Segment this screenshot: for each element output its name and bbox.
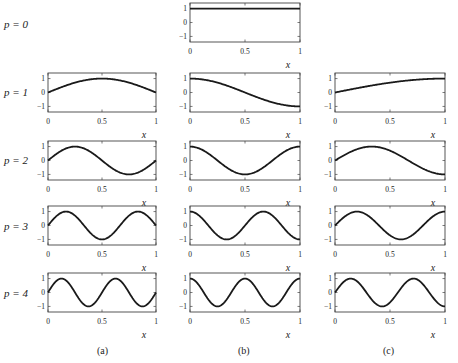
panel-c-p4: 10−100.51x — [324, 273, 447, 340]
x-tick-label: 0 — [46, 185, 50, 194]
x-tick-label: 1 — [298, 47, 302, 56]
y-tick-label: 1 — [183, 4, 187, 13]
y-tick-label: 0 — [41, 88, 45, 97]
mode-curve — [190, 279, 300, 307]
x-tick-label: 0 — [188, 117, 192, 126]
x-tick-label: 1 — [443, 117, 447, 126]
row-label-p0: p = 0 — [3, 18, 28, 30]
caption-b: (b) — [238, 345, 250, 357]
caption-c: (c) — [383, 345, 394, 357]
y-tick-label: −1 — [324, 302, 332, 311]
mode-curve — [335, 79, 445, 93]
x-axis-label: x — [285, 329, 291, 340]
mode-curve — [190, 147, 300, 175]
mode-curve — [48, 79, 156, 93]
y-tick-label: −1 — [324, 235, 332, 244]
y-tick-label: 0 — [41, 221, 45, 230]
y-tick-label: 1 — [41, 74, 45, 83]
y-tick-label: 0 — [328, 288, 332, 297]
x-axis-label: x — [141, 129, 147, 140]
x-tick-label: 1 — [154, 250, 158, 259]
x-tick-label: 1 — [298, 250, 302, 259]
y-tick-label: 1 — [41, 207, 45, 216]
row-labels: p = 0 p = 1 p = 2 p = 3 p = 4 — [3, 18, 28, 299]
y-tick-label: −1 — [324, 102, 332, 111]
y-tick-label: 0 — [183, 221, 187, 230]
y-tick-label: −1 — [37, 235, 45, 244]
x-tick-label: 0 — [188, 250, 192, 259]
y-tick-label: 1 — [328, 207, 332, 216]
x-tick-label: 1 — [154, 185, 158, 194]
y-tick-label: −1 — [179, 32, 187, 41]
x-tick-label: 0.5 — [385, 185, 395, 194]
panel-c-p1: 10−100.51x — [324, 73, 447, 140]
x-tick-label: 0 — [46, 117, 50, 126]
x-axis-label: x — [141, 262, 147, 273]
figure-grid: p = 0 p = 1 p = 2 p = 3 p = 4 10−100.51x… — [0, 0, 458, 363]
y-tick-label: −1 — [37, 302, 45, 311]
x-tick-label: 0.5 — [97, 185, 107, 194]
panel-c-p2: 10−100.51x — [324, 141, 447, 208]
x-tick-label: 0.5 — [97, 117, 107, 126]
y-tick-label: 1 — [328, 142, 332, 151]
x-tick-label: 0 — [333, 117, 337, 126]
x-tick-label: 0.5 — [240, 317, 250, 326]
x-axis-label: x — [285, 129, 291, 140]
x-tick-label: 1 — [298, 117, 302, 126]
y-tick-label: 0 — [328, 88, 332, 97]
y-tick-label: −1 — [37, 170, 45, 179]
y-tick-label: −1 — [179, 302, 187, 311]
x-tick-label: 1 — [443, 250, 447, 259]
mode-curve — [335, 279, 445, 307]
y-tick-label: 0 — [183, 18, 187, 27]
x-axis-label: x — [430, 329, 436, 340]
y-tick-label: 1 — [328, 274, 332, 283]
x-axis-label: x — [430, 262, 436, 273]
y-tick-label: 0 — [183, 156, 187, 165]
mode-curve — [335, 212, 445, 240]
mode-curve — [190, 212, 300, 240]
x-tick-label: 0 — [188, 47, 192, 56]
column-captions: (a) (b) (c) — [97, 345, 394, 357]
x-axis-label: x — [285, 59, 291, 70]
x-tick-label: 0 — [188, 317, 192, 326]
y-tick-label: 0 — [41, 156, 45, 165]
y-tick-label: 0 — [183, 288, 187, 297]
x-tick-label: 0 — [46, 250, 50, 259]
panel-b-p2: 10−100.51x — [179, 141, 302, 208]
y-tick-label: −1 — [324, 170, 332, 179]
x-tick-label: 0.5 — [97, 317, 107, 326]
y-tick-label: 1 — [183, 74, 187, 83]
x-tick-label: 0.5 — [385, 250, 395, 259]
x-tick-label: 0.5 — [385, 317, 395, 326]
x-tick-label: 0 — [46, 317, 50, 326]
x-tick-label: 0 — [188, 185, 192, 194]
y-tick-label: −1 — [37, 102, 45, 111]
x-tick-label: 0 — [333, 185, 337, 194]
mode-curve — [190, 79, 300, 107]
y-tick-label: −1 — [179, 235, 187, 244]
y-tick-label: −1 — [179, 102, 187, 111]
row-label-p4: p = 4 — [3, 287, 28, 299]
x-tick-label: 1 — [298, 185, 302, 194]
x-tick-label: 0.5 — [240, 47, 250, 56]
panel-a-p3: 10−100.51x — [37, 206, 158, 273]
x-tick-label: 1 — [443, 317, 447, 326]
y-tick-label: −1 — [179, 170, 187, 179]
panel-b-p3: 10−100.51x — [179, 206, 302, 273]
x-tick-label: 0.5 — [240, 250, 250, 259]
y-tick-label: 1 — [41, 142, 45, 151]
panel-a-p4: 10−100.51x — [37, 273, 158, 340]
y-tick-label: 1 — [328, 74, 332, 83]
row-label-p3: p = 3 — [3, 220, 28, 232]
panel-b-p4: 10−100.51x — [179, 273, 302, 340]
mode-curve — [48, 279, 156, 307]
x-tick-label: 0.5 — [385, 117, 395, 126]
x-tick-label: 1 — [443, 185, 447, 194]
y-tick-label: 0 — [183, 88, 187, 97]
x-tick-label: 0.5 — [97, 250, 107, 259]
x-tick-label: 0.5 — [240, 117, 250, 126]
y-tick-label: 0 — [41, 288, 45, 297]
panel-b-p1: 10−100.51x — [179, 73, 302, 140]
panel-b-p0: 10−100.51x — [179, 3, 302, 70]
